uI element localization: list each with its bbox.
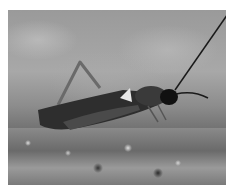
cricket-insect [8,10,226,185]
photo-frame [8,10,226,185]
